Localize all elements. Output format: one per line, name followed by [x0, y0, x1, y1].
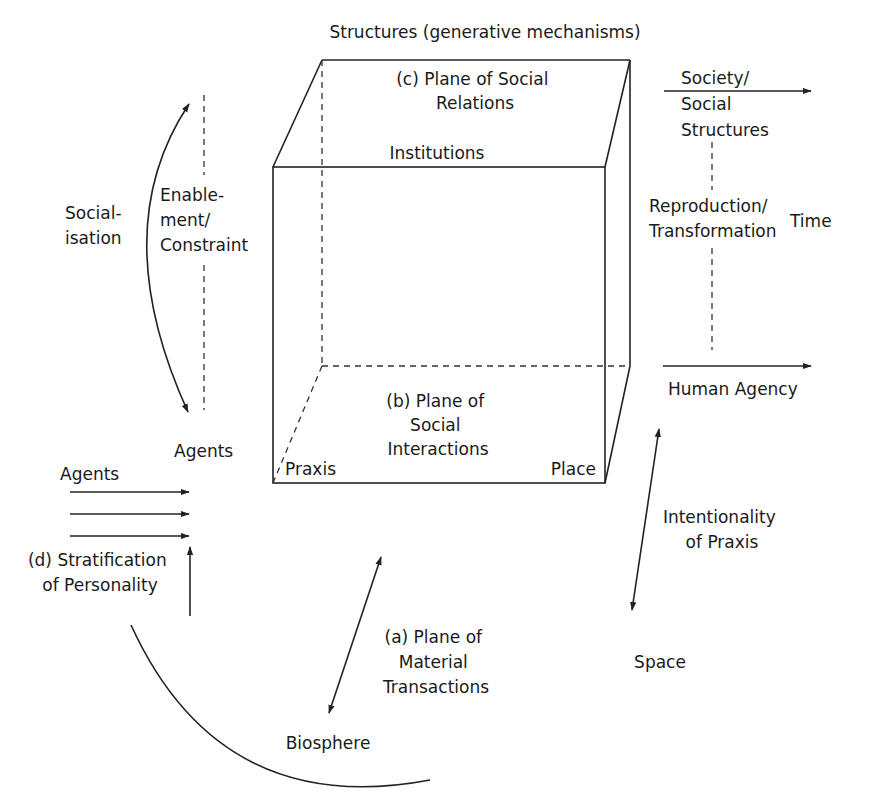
agents-label-left: Agents	[60, 464, 119, 484]
socialisation-label: Social- isation	[65, 203, 127, 248]
agents-label-top: Agents	[174, 441, 233, 461]
cube-front-face	[273, 167, 605, 483]
material-transactions-arrow	[329, 557, 381, 713]
intentionality-arrow	[632, 429, 659, 610]
place-label: Place	[551, 459, 596, 479]
cube-top-right-edge	[605, 60, 630, 167]
human-agency-label: Human Agency	[668, 379, 798, 399]
cube-bottom-right-edge	[605, 366, 630, 483]
plane-a-label: (a) Plane of Material Transactions	[382, 627, 489, 697]
diagram-title: Structures (generative mechanisms)	[329, 22, 640, 42]
society-social-structures-label: Society/ Social Structures	[681, 68, 769, 140]
plane-b-label: (b) Plane of Social Interactions	[386, 391, 489, 459]
time-label: Time	[789, 211, 832, 231]
social-being-diagram: Structures (generative mechanisms) (c) P…	[0, 0, 873, 809]
praxis-label: Praxis	[285, 459, 336, 479]
biosphere-label: Biosphere	[286, 733, 371, 753]
plane-c-label: (c) Plane of Social Relations	[396, 69, 554, 113]
intentionality-of-praxis-label: Intentionality of Praxis	[663, 507, 781, 552]
biosphere-curve	[131, 625, 430, 787]
reproduction-transformation-label: Reproduction/ Transformation	[648, 196, 777, 241]
stratification-label: (d) Stratification of Personality	[28, 550, 172, 595]
cube-top-left-edge	[273, 60, 322, 167]
space-label: Space	[634, 652, 686, 672]
institutions-label: Institutions	[390, 143, 485, 163]
socialisation-arrow	[147, 104, 189, 412]
enablement-constraint-label: Enable- ment/ Constraint	[160, 185, 248, 255]
